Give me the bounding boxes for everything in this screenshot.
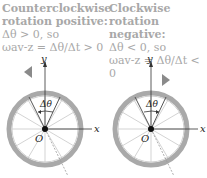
delta-theta-label: Δθ <box>145 99 158 109</box>
origin-label: O <box>35 133 43 144</box>
origin-label: O <box>141 133 149 144</box>
origin-point <box>42 126 48 132</box>
wheel-clockwise: y x O Δθ <box>115 53 206 176</box>
delta-theta-label: Δθ <box>39 99 52 109</box>
wheel-counterclockwise: y x O Δθ <box>9 53 100 176</box>
x-label: x <box>94 123 100 134</box>
y-label: y <box>40 53 47 64</box>
x-label: x <box>200 123 206 134</box>
y-label: y <box>146 53 153 64</box>
origin-point <box>148 126 154 132</box>
wheels-diagram: y x O Δθ y <box>0 0 207 178</box>
